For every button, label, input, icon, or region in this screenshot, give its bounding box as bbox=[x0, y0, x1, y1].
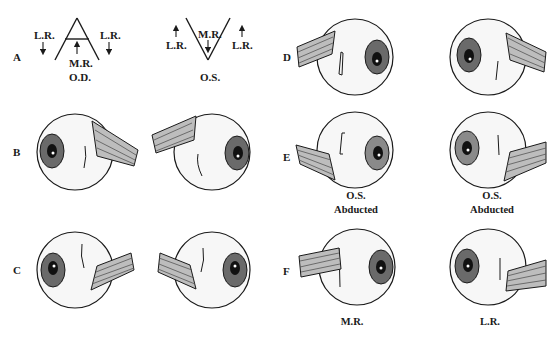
od-caption: O.D. bbox=[69, 72, 91, 83]
eye-b-right bbox=[150, 108, 260, 198]
od-lr-right-label: L.R. bbox=[100, 30, 121, 41]
e-right-caption-eye: O.S. bbox=[470, 189, 514, 203]
os-caption: O.S. bbox=[200, 72, 220, 83]
e-right-caption-state: Abducted bbox=[470, 203, 514, 217]
iris-icon bbox=[365, 136, 389, 170]
os-lr-right-label: L.R. bbox=[232, 40, 253, 51]
eye-e-left bbox=[295, 108, 405, 198]
eye-d-right bbox=[440, 5, 548, 100]
e-right-caption: O.S. Abducted bbox=[470, 189, 514, 217]
eye-e-right bbox=[440, 108, 548, 198]
iris-icon bbox=[365, 40, 389, 74]
iris-icon bbox=[223, 253, 247, 287]
iris-icon bbox=[455, 131, 479, 165]
od-lr-left-label: L.R. bbox=[34, 30, 55, 41]
e-left-caption-eye: O.S. bbox=[334, 189, 378, 203]
os-lr-left-label: L.R. bbox=[166, 40, 187, 51]
iris-icon bbox=[457, 38, 481, 72]
iris-icon bbox=[225, 136, 249, 170]
iris-icon bbox=[455, 249, 479, 283]
eye-c-left bbox=[30, 228, 140, 318]
eye-d-left bbox=[295, 5, 405, 100]
eye-b-left bbox=[30, 108, 140, 198]
eye-f-left bbox=[295, 228, 405, 313]
e-left-caption-state: Abducted bbox=[334, 203, 378, 217]
e-left-caption: O.S. Abducted bbox=[334, 189, 378, 217]
od-mr-label: M.R. bbox=[69, 58, 93, 69]
f-right-caption: L.R. bbox=[480, 315, 500, 329]
eye-f-right bbox=[440, 228, 548, 313]
eye-c-right bbox=[150, 228, 260, 318]
os-mr-label: M.R. bbox=[198, 29, 222, 40]
iris-icon bbox=[41, 253, 65, 287]
iris-icon bbox=[369, 250, 393, 284]
iris-icon bbox=[40, 134, 64, 168]
f-left-caption: M.R. bbox=[341, 315, 364, 329]
